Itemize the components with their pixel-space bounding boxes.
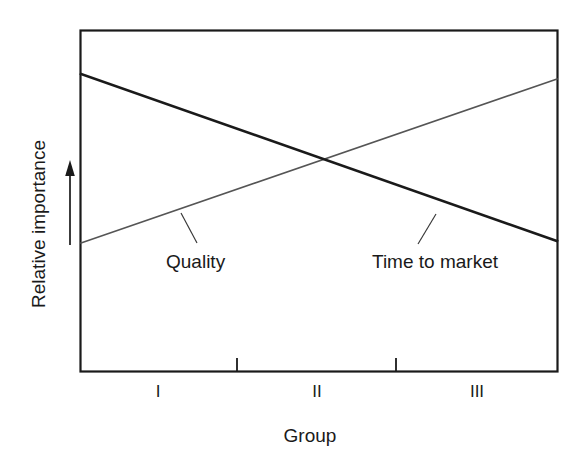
- series-label-time-to-market: Time to market: [372, 251, 499, 272]
- relative-importance-vs-group-chart: Quality Time to market I II III Group Re…: [0, 0, 586, 471]
- up-arrow-icon: [65, 160, 75, 245]
- x-tick-label-1: I: [156, 382, 161, 401]
- x-axis-title: Group: [284, 425, 337, 446]
- x-tick-label-3: III: [470, 382, 484, 401]
- series-label-quality: Quality: [166, 251, 226, 272]
- plot-frame: [81, 31, 558, 372]
- x-tick-label-2: II: [312, 382, 321, 401]
- y-axis-title: Relative importance: [28, 140, 49, 308]
- chart-figure: Quality Time to market I II III Group Re…: [0, 0, 586, 471]
